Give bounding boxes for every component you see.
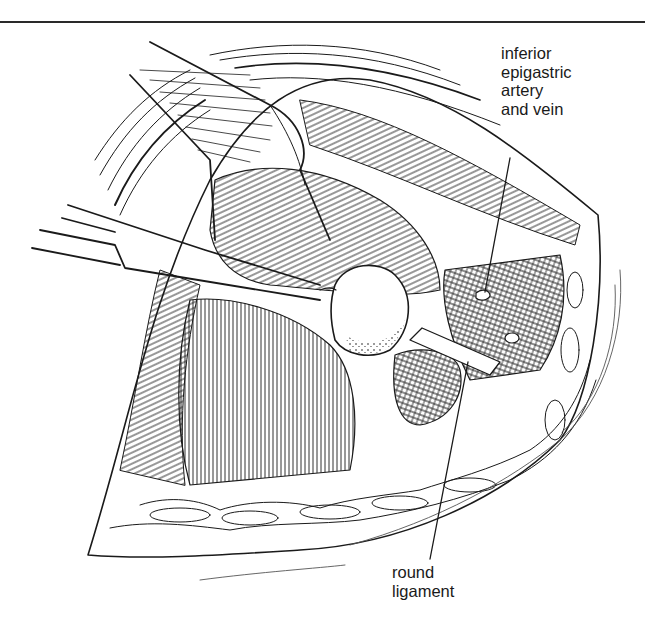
label-line: inferior [501,44,572,63]
label-line: round [392,563,454,582]
label-line: epigastric [501,63,572,82]
label-line: and vein [501,100,572,119]
upper-muscle-mass [210,168,440,294]
label-line: ligament [392,582,454,601]
label-line: artery [501,81,572,100]
label-round-ligament: round ligament [392,563,454,600]
label-inferior-epigastric-artery-and-vein: inferior epigastric artery and vein [501,44,572,118]
epigastric-vessel [476,290,490,300]
upper-retractor-hatch [140,70,272,162]
left-muscle-mass [179,299,355,485]
fat-nodule [505,333,519,343]
lower-center-cavity [394,350,461,425]
